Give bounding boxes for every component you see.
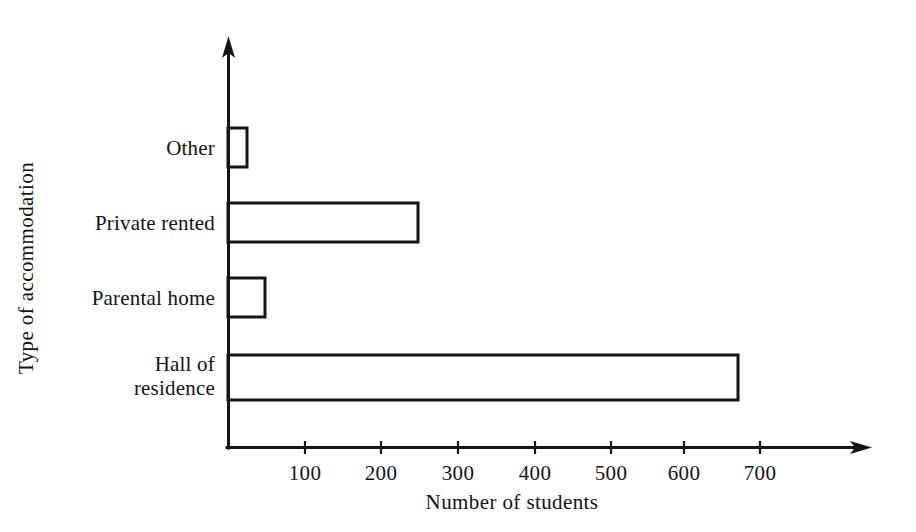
x-tick-label-300: 300	[442, 461, 474, 485]
x-axis-title: Number of students	[426, 490, 599, 514]
category-label-hall-of-residence-line1: Hall of	[155, 352, 215, 376]
bar-other	[228, 128, 247, 167]
x-tick-label-600: 600	[668, 461, 700, 485]
bar-private-rented	[228, 203, 418, 242]
category-label-other: Other	[166, 136, 215, 160]
x-tick-label-500: 500	[595, 461, 627, 485]
bar-parental-home	[228, 278, 265, 317]
bar-chart-figure: 100 200 300 400 500 600 700 Other Privat…	[0, 0, 916, 532]
bar-hall-of-residence	[228, 355, 738, 400]
category-label-hall-of-residence-line2: residence	[134, 376, 215, 400]
category-label-private-rented: Private rented	[95, 211, 215, 235]
y-axis-title: Type of accommodation	[14, 162, 38, 374]
category-label-parental-home: Parental home	[92, 286, 215, 310]
x-tick-label-100: 100	[289, 461, 321, 485]
chart-canvas: 100 200 300 400 500 600 700 Other Privat…	[0, 0, 916, 532]
x-tick-label-200: 200	[365, 461, 397, 485]
x-tick-label-700: 700	[744, 461, 776, 485]
x-tick-label-400: 400	[519, 461, 551, 485]
